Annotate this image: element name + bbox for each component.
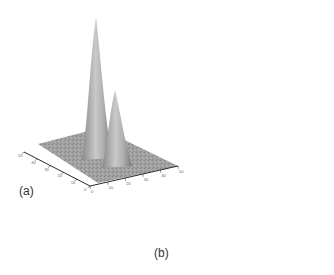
panel-a-y-tick-label: 30 <box>44 167 49 172</box>
panel-a-y-tick-label: 50 <box>18 153 23 158</box>
panel-a-y-tick-label: 10 <box>71 180 76 185</box>
panel-a-x-tick-label: 0 <box>91 189 94 194</box>
panel-a-y-tick-label: 20 <box>58 173 63 178</box>
panel-a-y-tick-mark <box>88 186 90 188</box>
panel-a-label: (a) <box>19 184 34 198</box>
panel-a-x-tick-label: 30 <box>144 177 149 182</box>
panel-a-x-tick-label: 50 <box>179 169 184 174</box>
figure-canvas: 01020304050 01020304050 <box>0 0 334 275</box>
panel-a-y-tick-label: 40 <box>31 160 36 165</box>
panel-b-label: (b) <box>154 246 169 260</box>
panel-a-x-tick-label: 40 <box>161 173 166 178</box>
panel-a-x-tick-label: 20 <box>126 181 131 186</box>
panel-a-y-tick-label: 0 <box>84 187 87 192</box>
panel-a-plot: 01020304050 01020304050 <box>18 17 184 194</box>
panel-a-x-tick-label: 10 <box>109 185 114 190</box>
